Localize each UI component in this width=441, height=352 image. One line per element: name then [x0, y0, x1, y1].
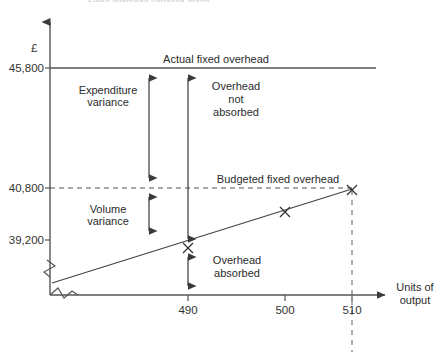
data-marker-490: [183, 243, 193, 253]
overhead-absorbed-label-line1: Overhead: [197, 254, 277, 267]
y-tick-label-39200: 39,200: [0, 234, 44, 246]
y-tick-label-40800: 40,800: [0, 182, 44, 194]
overhead-not-absorbed-label-line3: absorbed: [196, 106, 276, 119]
x-axis-title-line1: Units of: [390, 281, 440, 293]
expenditure-variance-label-line1: Expenditure: [70, 84, 146, 97]
data-marker-502: [280, 207, 290, 217]
overhead-not-absorbed-label-line1: Overhead: [196, 80, 276, 93]
x-tick-label-510: 510: [332, 304, 372, 316]
volume-variance-label-line1: Volume: [70, 203, 146, 216]
x-tick-marks: [188, 295, 352, 301]
x-tick-label-500: 500: [265, 304, 305, 316]
axis-break-symbol: [44, 260, 78, 298]
overhead-not-absorbed-label-line2: not: [196, 93, 276, 106]
volume-variance-label-line2: variance: [70, 215, 146, 228]
y-axis-title: £: [31, 42, 37, 54]
expenditure-variance-label-line2: variance: [70, 96, 146, 109]
x-tick-label-490: 490: [168, 304, 208, 316]
y-tick-label-45800: 45,800: [0, 62, 44, 74]
y-tick-marks: [45, 68, 50, 240]
fixed-overhead-variance-chart: Fixed overhead variance graph: [0, 0, 441, 352]
overhead-absorbed-label-line2: absorbed: [197, 267, 277, 280]
budgeted-fixed-overhead-label: Budgeted fixed overhead: [198, 173, 358, 185]
x-axis-title-line2: output: [390, 294, 440, 306]
actual-fixed-overhead-label: Actual fixed overhead: [126, 53, 306, 65]
